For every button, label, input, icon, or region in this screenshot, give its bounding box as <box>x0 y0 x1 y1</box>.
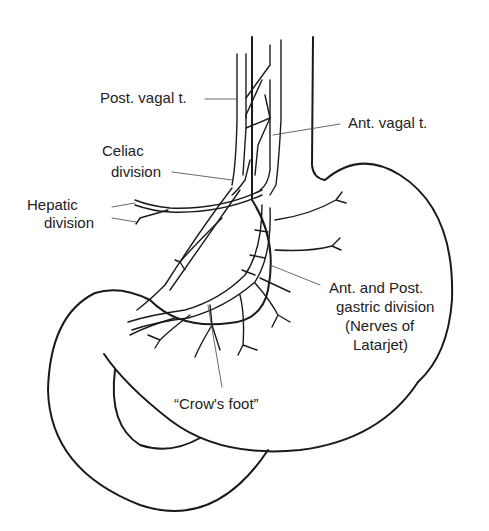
label-gastric-line1: Ant. and Post. <box>329 279 423 297</box>
anatomy-illustration <box>0 0 489 531</box>
label-gastric-line2: gastric division <box>336 298 434 316</box>
label-hepatic-line2: division <box>44 214 94 232</box>
latarjet-nerves <box>128 192 346 357</box>
label-crows-foot: “Crow's foot” <box>174 395 259 413</box>
stomach-outline <box>48 37 452 511</box>
label-celiac-line1: Celiac <box>102 142 144 160</box>
vagal-trunks <box>232 40 281 195</box>
label-celiac-line2: division <box>111 163 161 181</box>
label-hepatic-line1: Hepatic <box>27 196 78 214</box>
label-gastric-line3: (Nerves of <box>345 317 414 335</box>
vagus-stomach-diagram: Post. vagal t. Ant. vagal t. Celiac divi… <box>0 0 489 531</box>
leader-lines <box>112 99 340 387</box>
label-post-vagal-trunk: Post. vagal t. <box>100 89 187 107</box>
label-ant-vagal-trunk: Ant. vagal t. <box>348 114 427 132</box>
label-gastric-line4: Latarjet) <box>353 336 408 354</box>
